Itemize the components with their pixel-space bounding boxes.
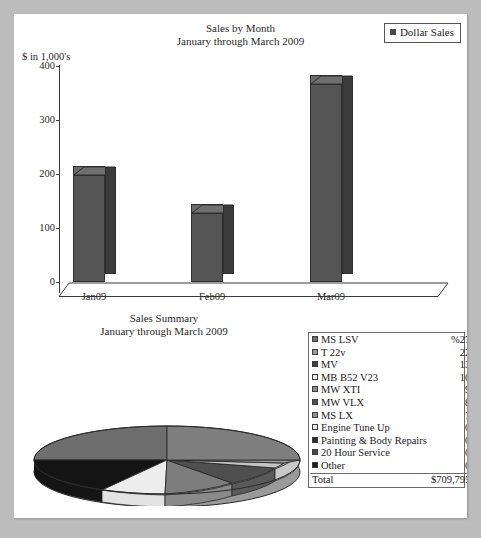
pie-chart-title-line1: Sales Summary (14, 312, 314, 325)
bar-feb09-face (191, 213, 223, 282)
pie-legend-rows: MS LSV %27.47 T 22v 22.19 MV 13.53 MB (310, 334, 467, 486)
y-axis-line (59, 65, 60, 293)
legend-value: 0.22 (429, 460, 467, 473)
legend-value: %27.47 (429, 334, 467, 347)
legend-value: 8.03 (429, 397, 467, 410)
bar-jan09-top (73, 166, 105, 175)
legend-value: 10.57 (429, 372, 467, 385)
legend-swatch-icon (312, 386, 318, 392)
total-label: Total (310, 473, 429, 486)
table-row[interactable]: MS LSV %27.47 (310, 334, 467, 347)
legend-label: Engine Tune Up (321, 422, 390, 433)
bar-mar09[interactable] (310, 14, 355, 283)
y-tick-mark-100 (56, 228, 60, 229)
y-tick-label-400: 400 (25, 60, 55, 71)
bar-chart-legend[interactable]: Dollar Sales (384, 23, 461, 43)
legend-swatch-icon (312, 399, 318, 405)
pie-slice-ms-lsv (34, 426, 167, 460)
legend-value: 0.49 (429, 422, 467, 435)
legend-swatch-icon (312, 374, 318, 380)
y-tick-label-0: 0 (25, 276, 55, 287)
bar-feb09-top (191, 204, 223, 213)
table-row[interactable]: Other 0.22 (310, 460, 467, 473)
bar-feb09[interactable] (191, 14, 236, 283)
screenshot-root: Sales by Month January through March 200… (0, 0, 481, 538)
pie-chart-title-line2: January through March 2009 (14, 325, 314, 338)
table-row[interactable]: 20 Hour Service 0.12 (310, 447, 467, 460)
y-tick-label-300: 300 (25, 114, 55, 125)
table-row[interactable]: MB B52 V23 10.57 (310, 372, 467, 385)
legend-swatch-icon (312, 462, 318, 468)
table-row[interactable]: MS LX 7.33 (310, 410, 467, 423)
bar-feb09-side (223, 205, 234, 274)
pie-chart-title: Sales Summary January through March 2009 (14, 312, 314, 338)
legend-label: MS LX (321, 410, 353, 421)
table-row[interactable]: MV 13.53 (310, 359, 467, 372)
y-tick-label-200: 200 (25, 168, 55, 179)
bar-jan09[interactable] (73, 14, 118, 283)
pie-chart-panel: Sales Summary January through March 2009 (14, 310, 467, 518)
bar-chart-legend-label: Dollar Sales (400, 26, 454, 38)
legend-value: 9.86 (429, 384, 467, 397)
legend-label: MW VLX (321, 397, 364, 408)
legend-value: 0.12 (429, 447, 467, 460)
legend-swatch-icon (312, 361, 318, 367)
pie-chart-graphic[interactable] (32, 414, 302, 506)
bar-mar09-top (310, 75, 342, 84)
bar-jan09-face (73, 175, 105, 282)
table-row[interactable]: T 22v 22.19 (310, 347, 467, 360)
y-tick-mark-300 (56, 120, 60, 121)
pie-slice-t-22v (167, 426, 300, 460)
pie-legend-table[interactable]: MS LSV %27.47 T 22v 22.19 MV 13.53 MB (308, 332, 465, 488)
table-row-total: Total $709,795.00 (310, 473, 467, 486)
legend-swatch-icon (312, 412, 318, 418)
bar-chart-panel: Sales by Month January through March 200… (14, 14, 467, 310)
y-tick-mark-400 (56, 66, 60, 67)
table-row[interactable]: Painting & Body Repairs 0.19 (310, 435, 467, 448)
legend-swatch-icon (312, 437, 318, 443)
legend-swatch-icon (390, 29, 396, 35)
legend-value: 13.53 (429, 359, 467, 372)
total-value: $709,795.00 (429, 473, 467, 486)
x-tick-label-jan09: Jan09 (64, 291, 124, 302)
table-row[interactable]: MW VLX 8.03 (310, 397, 467, 410)
legend-value: 0.19 (429, 435, 467, 448)
legend-label: Other (321, 460, 345, 471)
pie-chart-svg (32, 414, 302, 506)
legend-label: T 22v (321, 347, 346, 358)
legend-label: Painting & Body Repairs (321, 435, 427, 446)
y-tick-mark-200 (56, 174, 60, 175)
legend-label: MV (321, 359, 338, 370)
legend-label: 20 Hour Service (321, 447, 390, 458)
y-tick-label-100: 100 (25, 222, 55, 233)
report-page: Sales by Month January through March 200… (14, 14, 467, 518)
bar-mar09-face (310, 84, 342, 282)
legend-label: MB B52 V23 (321, 372, 378, 383)
legend-value: 22.19 (429, 347, 467, 360)
table-row[interactable]: Engine Tune Up 0.49 (310, 422, 467, 435)
table-row[interactable]: MW XTI 9.86 (310, 384, 467, 397)
legend-swatch-icon (312, 336, 318, 342)
legend-label: MW XTI (321, 384, 360, 395)
legend-swatch-icon (312, 449, 318, 455)
legend-swatch-icon (312, 424, 318, 430)
legend-value: 7.33 (429, 410, 467, 423)
bar-mar09-side (342, 76, 353, 274)
legend-swatch-icon (312, 349, 318, 355)
x-tick-label-mar09: Mar09 (301, 291, 361, 302)
x-tick-label-feb09: Feb09 (182, 291, 242, 302)
legend-label: MS LSV (321, 334, 359, 345)
bar-jan09-side (105, 167, 116, 274)
